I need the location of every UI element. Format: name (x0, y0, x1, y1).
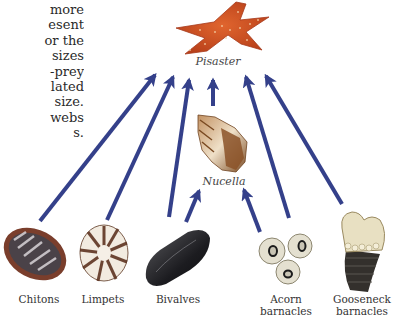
chiton-icon (0, 217, 75, 290)
arrow-limpets-to-pisaster (107, 77, 173, 220)
arrow-acorn-to-nucella (244, 190, 260, 232)
label-line: barnacles (256, 305, 316, 317)
mussel-icon (146, 230, 210, 286)
label-line: Acorn (256, 293, 316, 305)
arrow-acorn-to-pisaster (246, 77, 289, 218)
starfish-icon (176, 2, 269, 54)
label-bivalves: Bivalves (150, 293, 206, 305)
label-limpets: Limpets (78, 293, 128, 305)
label-chitons: Chitons (14, 293, 64, 305)
arrow-chitons-to-pisaster (40, 75, 155, 221)
label-acorn-barnacles: Acorn barnacles (256, 293, 316, 317)
limpet-icon (80, 225, 128, 281)
label-pisaster: Pisaster (188, 56, 248, 68)
arrow-bivalves-to-pisaster (169, 80, 189, 217)
arrows (40, 75, 342, 232)
label-line: barnacles (330, 305, 394, 317)
gooseneck-barnacle-icon (342, 212, 385, 292)
acorn-barnacle-icon (259, 234, 312, 284)
arrow-bivalves-to-nucella (186, 191, 199, 222)
label-line: Gooseneck (330, 293, 394, 305)
label-gooseneck-barnacles: Gooseneck barnacles (330, 293, 394, 317)
label-nucella: Nucella (194, 176, 254, 188)
whelk-snail-icon (198, 115, 247, 172)
food-web-diagram (0, 0, 396, 317)
